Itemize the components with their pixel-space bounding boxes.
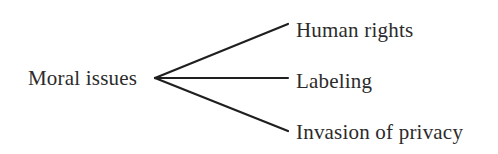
root-node-label: Moral issues (28, 68, 137, 89)
leaf-node-label-labeling: Labeling (296, 71, 372, 92)
leaf-node-label-human-rights: Human rights (296, 20, 413, 41)
concept-tree-diagram: Moral issues Human rights Labeling Invas… (0, 0, 498, 154)
branch-line-human-rights (155, 24, 288, 78)
branch-line-invasion-of-privacy (155, 78, 288, 131)
leaf-node-label-invasion-of-privacy: Invasion of privacy (296, 122, 463, 143)
